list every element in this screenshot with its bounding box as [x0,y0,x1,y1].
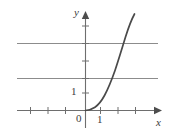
y-axis-arrowhead [82,11,89,19]
x-axis-label: x [156,117,161,128]
x-axis-tick-label-one: 1 [97,114,103,125]
plot-canvas [0,0,175,138]
origin-tick-label: 0 [76,113,82,124]
y-axis-label: y [74,7,79,18]
y-axis-tick-label-one: 1 [71,86,77,97]
function-graph-figure: y x 0 1 1 [0,0,175,138]
x-axis-arrowhead [154,107,162,114]
function-curve [86,14,135,111]
